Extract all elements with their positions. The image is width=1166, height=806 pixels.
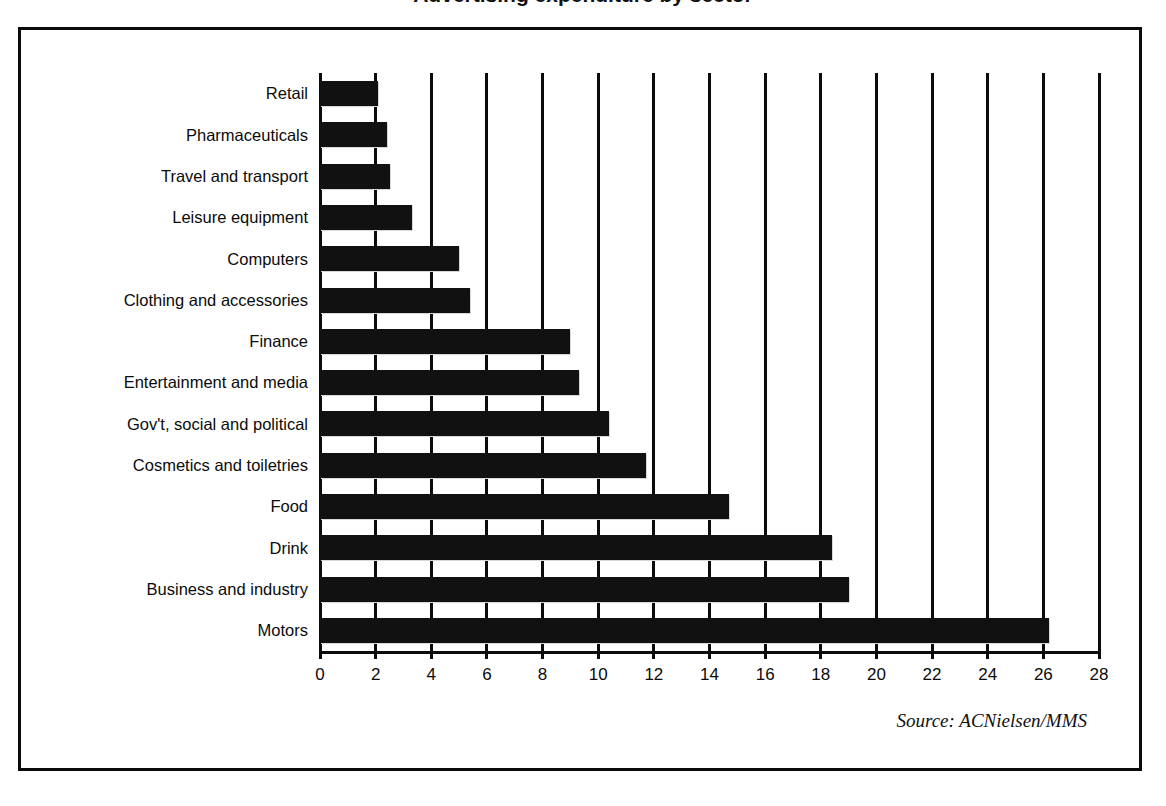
x-axis-tick [485,646,488,659]
bar[interactable] [320,122,387,147]
category-label: Leisure equipment [172,209,308,226]
x-axis-tick-label: 24 [978,665,997,685]
x-axis-tick [597,646,600,659]
x-axis-tick-label: 20 [867,665,886,685]
category-label: Drink [269,540,308,557]
bar[interactable] [320,411,609,436]
bar[interactable] [320,329,570,354]
bar[interactable] [320,205,412,230]
x-axis-tick [541,646,544,659]
x-axis-tick-label: 18 [811,665,830,685]
bar-row[interactable]: Leisure equipment [320,197,412,238]
x-axis-tick-label: 6 [482,665,491,685]
x-axis-tick-label: 16 [756,665,775,685]
bar[interactable] [320,535,832,560]
x-axis-tick-label: 10 [589,665,608,685]
x-axis-tick-label: 0 [315,665,324,685]
bar[interactable] [320,453,646,478]
x-axis-tick [319,646,322,659]
bar[interactable] [320,164,390,189]
bar-row[interactable]: Cosmetics and toiletries [320,445,646,486]
source-note: Source: ACNielsen/MMS [897,710,1088,732]
bar-row[interactable]: Finance [320,321,570,362]
x-axis-tick [875,646,878,659]
x-axis-tick [764,646,767,659]
bar-row[interactable]: Computers [320,238,459,279]
bar-row[interactable]: Motors [320,610,1049,651]
bar-row[interactable]: Pharmaceuticals [320,114,387,155]
x-axis-tick [430,646,433,659]
bar[interactable] [320,370,579,395]
category-label: Travel and transport [161,168,308,185]
bar[interactable] [320,288,470,313]
x-axis-tick [652,646,655,659]
x-axis-tick-label: 12 [644,665,663,685]
x-axis-tick-label: 28 [1090,665,1109,685]
x-axis-tick-label: 26 [1034,665,1053,685]
category-label: Pharmaceuticals [186,127,308,144]
plot-area: RetailPharmaceuticalsTravel and transpor… [320,73,1099,651]
x-axis-tick [1042,646,1045,659]
bar-row[interactable]: Business and industry [320,568,849,609]
bar-row[interactable]: Clothing and accessories [320,279,470,320]
bar-row[interactable]: Retail [320,73,378,114]
bar-row[interactable]: Travel and transport [320,156,390,197]
category-label: Motors [258,622,308,639]
category-label: Gov't, social and political [127,416,308,433]
bar-row[interactable]: Drink [320,527,832,568]
bar[interactable] [320,577,849,602]
chart-title-text: Advertising expenditure by sector [0,0,1166,7]
category-label: Computers [227,251,308,268]
x-axis-tick [374,646,377,659]
bar-series: RetailPharmaceuticalsTravel and transpor… [320,73,1099,651]
x-axis-tick [819,646,822,659]
bar-row[interactable]: Gov't, social and political [320,403,609,444]
category-label: Cosmetics and toiletries [133,457,308,474]
category-label: Retail [266,85,308,102]
x-axis-tick [931,646,934,659]
x-axis-tick-label: 22 [923,665,942,685]
x-axis-tick [708,646,711,659]
category-label: Entertainment and media [124,374,308,391]
x-axis-tick [1098,646,1101,659]
bar-row[interactable]: Food [320,486,729,527]
bar-row[interactable]: Entertainment and media [320,362,579,403]
bar[interactable] [320,81,378,106]
bar[interactable] [320,494,729,519]
chart-title-clipped: Advertising expenditure by sector [0,0,1166,14]
category-label: Food [270,498,308,515]
category-label: Clothing and accessories [124,292,308,309]
x-axis-tick-label: 4 [427,665,436,685]
category-label: Finance [249,333,308,350]
chart-frame: RetailPharmaceuticalsTravel and transpor… [18,27,1142,771]
x-axis-tick-label: 2 [371,665,380,685]
x-axis-tick-label: 14 [700,665,719,685]
x-axis-tick [986,646,989,659]
bar[interactable] [320,246,459,271]
x-axis-tick-label: 8 [538,665,547,685]
bar[interactable] [320,618,1049,643]
category-label: Business and industry [147,581,308,598]
